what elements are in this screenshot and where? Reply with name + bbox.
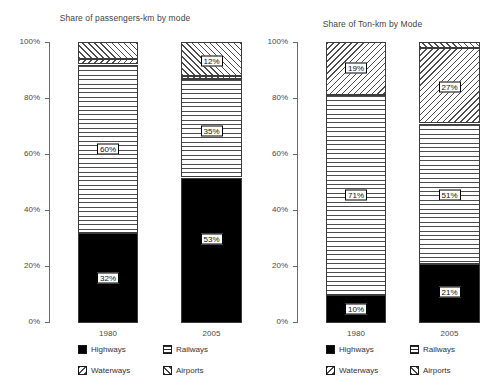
y-axis-tick <box>45 322 49 323</box>
y-axis-tick <box>293 322 297 323</box>
data-label-railways: 35% <box>200 126 222 137</box>
legend-item-airports[interactable]: Airports <box>163 366 204 375</box>
legend-label: Airports <box>176 366 204 375</box>
legend-item-waterways[interactable]: Waterways <box>78 366 130 375</box>
y-axis-line <box>49 42 50 323</box>
y-axis-tick-label: 80% <box>6 94 40 102</box>
bar-stack[interactable]: 60% 32% <box>78 42 138 323</box>
y-axis-tick <box>45 266 49 267</box>
chart-panel-ton-km: Share of Ton-km by Mode 100% 80% 60% 40%… <box>250 0 495 385</box>
airports-swatch-icon <box>410 366 419 375</box>
legend-label: Waterways <box>339 366 378 375</box>
legend-label: Waterways <box>91 366 130 375</box>
y-axis-tick-label: 60% <box>254 150 288 158</box>
waterways-swatch-icon <box>78 366 87 375</box>
highways-swatch-icon <box>78 345 87 354</box>
data-label-railways: 71% <box>345 190 367 201</box>
y-axis-tick <box>293 98 297 99</box>
y-axis-tick-label: 0% <box>6 318 40 326</box>
y-axis-tick <box>45 154 49 155</box>
y-axis-tick-label: 20% <box>254 262 288 270</box>
bar-segment-highways[interactable] <box>181 178 242 324</box>
y-axis-tick-label: 100% <box>254 38 288 46</box>
legend-label: Highways <box>91 345 126 354</box>
data-label-railways: 60% <box>97 143 119 154</box>
legend-item-airports[interactable]: Airports <box>410 366 451 375</box>
chart-title: Share of passengers-km by mode <box>0 13 250 25</box>
y-axis-tick-label: 20% <box>6 262 40 270</box>
data-label-waterways: 27% <box>438 82 460 93</box>
y-axis-tick-label: 80% <box>254 94 288 102</box>
x-axis-category-label: 2005 <box>419 329 480 338</box>
legend-label: Railways <box>423 345 455 354</box>
chart-canvas: Share of passengers-km by mode 100% 80% … <box>0 0 495 385</box>
x-axis-category-label: 1980 <box>78 329 138 338</box>
data-label-highways: 21% <box>438 287 460 298</box>
waterways-swatch-icon <box>326 366 335 375</box>
bar-stack[interactable]: 19% 71% 10% <box>326 42 386 323</box>
legend-item-highways[interactable]: Highways <box>326 345 374 354</box>
legend-label: Highways <box>339 345 374 354</box>
y-axis-tick <box>293 266 297 267</box>
data-label-airports: 12% <box>200 56 222 67</box>
y-axis-tick-label: 40% <box>254 206 288 214</box>
y-axis-tick <box>45 98 49 99</box>
y-axis-tick-label: 60% <box>6 150 40 158</box>
legend-item-railways[interactable]: Railways <box>410 345 455 354</box>
y-axis-tick-label: 0% <box>254 318 288 326</box>
legend-item-railways[interactable]: Railways <box>163 345 208 354</box>
data-label-highways: 53% <box>200 234 222 245</box>
y-axis-tick-label: 100% <box>6 38 40 46</box>
railways-swatch-icon <box>163 345 172 354</box>
legend-item-waterways[interactable]: Waterways <box>326 366 378 375</box>
y-axis-tick-label: 40% <box>6 206 40 214</box>
legend-label: Airports <box>423 366 451 375</box>
y-axis-tick <box>293 154 297 155</box>
legend-label: Railways <box>176 345 208 354</box>
x-axis-category-label: 1980 <box>326 329 386 338</box>
chart-panel-passengers-km: Share of passengers-km by mode 100% 80% … <box>0 0 250 385</box>
railways-swatch-icon <box>410 345 419 354</box>
data-label-railways: 51% <box>438 190 460 201</box>
highways-swatch-icon <box>326 345 335 354</box>
y-axis-tick <box>45 42 49 43</box>
data-label-waterways: 19% <box>345 63 367 74</box>
y-axis-tick <box>293 210 297 211</box>
bar-stack[interactable]: 27% 51% 21% <box>419 42 480 323</box>
y-axis-tick <box>293 42 297 43</box>
legend-item-highways[interactable]: Highways <box>78 345 126 354</box>
x-axis-category-label: 2005 <box>181 329 242 338</box>
chart-title: Share of Ton-km by Mode <box>250 19 495 31</box>
y-axis-tick <box>45 210 49 211</box>
data-label-highways: 10% <box>345 304 367 315</box>
data-label-highways: 32% <box>97 273 119 284</box>
airports-swatch-icon <box>163 366 172 375</box>
y-axis-line <box>297 42 298 323</box>
bar-stack[interactable]: 12% 35% 53% <box>181 42 242 323</box>
bar-segment-airports[interactable] <box>78 42 138 59</box>
